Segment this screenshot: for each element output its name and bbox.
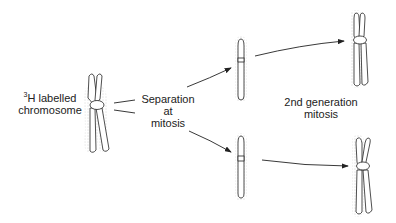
label-line-1: Separation — [137, 93, 199, 105]
label-labelled-chromosome: 3H labelled chromosome — [18, 92, 82, 116]
separation-line-lower — [114, 110, 135, 113]
second-gen-chromosome-top — [350, 10, 368, 88]
label-line-3: mitosis — [137, 117, 199, 129]
label-second-generation-mitosis: 2nd generation mitosis — [276, 96, 366, 120]
arrow-to-daughter-bottom — [189, 131, 231, 152]
separation-line-upper — [114, 100, 135, 103]
label-line-1: H labelled — [27, 92, 76, 104]
label-line-2: chromosome — [18, 104, 82, 116]
arrow-to-second-gen-top — [255, 41, 344, 56]
second-gen-chromosome-bottom — [352, 135, 372, 217]
label-line-1: 2nd generation — [276, 96, 366, 108]
arrow-to-daughter-top — [187, 68, 231, 87]
daughter-chromosome-top — [235, 36, 247, 102]
arrow-to-second-gen-bottom — [262, 160, 348, 166]
label-separation-at-mitosis: Separation at mitosis — [137, 93, 199, 129]
label-line-2: at — [137, 105, 199, 117]
parent-chromosome — [84, 74, 109, 153]
label-line-2: mitosis — [276, 108, 366, 120]
superscript-3: 3 — [24, 91, 28, 98]
daughter-chromosome-bottom — [235, 133, 247, 201]
